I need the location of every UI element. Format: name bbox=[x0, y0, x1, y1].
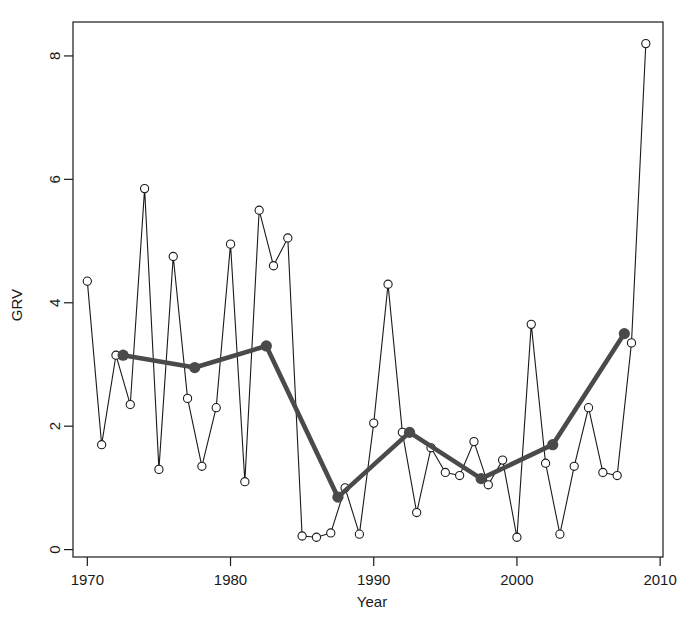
annual-grv-point bbox=[541, 459, 549, 467]
five-year-trend-point bbox=[189, 362, 200, 373]
five-year-trend-point bbox=[404, 427, 415, 438]
annual-grv-point bbox=[198, 462, 206, 470]
x-axis-tick-label: 1990 bbox=[357, 571, 390, 588]
y-axis-title: GRV bbox=[8, 289, 25, 321]
x-axis-tick-label: 1970 bbox=[71, 571, 104, 588]
annual-grv-point bbox=[241, 478, 249, 486]
five-year-trend-point bbox=[261, 340, 272, 351]
annual-grv-point bbox=[584, 404, 592, 412]
annual-grv-point bbox=[370, 419, 378, 427]
y-axis-tick-label: 2 bbox=[47, 422, 64, 430]
annual-grv-point bbox=[456, 471, 464, 479]
annual-grv-point bbox=[441, 468, 449, 476]
chart-container: 02468 19701980199020002010 GRV Year bbox=[0, 0, 687, 629]
annual-grv-point bbox=[269, 262, 277, 270]
y-axis-tick-label: 4 bbox=[47, 299, 64, 307]
five-year-trend-point bbox=[332, 492, 343, 503]
annual-grv-point bbox=[384, 280, 392, 288]
annual-grv-point bbox=[98, 441, 106, 449]
y-axis-tick-label: 6 bbox=[47, 175, 64, 183]
x-axis-tick-label: 1980 bbox=[214, 571, 247, 588]
five-year-trend-point bbox=[476, 473, 487, 484]
annual-grv-point bbox=[642, 39, 650, 47]
annual-grv-point bbox=[613, 471, 621, 479]
annual-grv-point bbox=[556, 530, 564, 538]
chart-background bbox=[0, 0, 687, 629]
annual-grv-point bbox=[169, 252, 177, 260]
annual-grv-point bbox=[126, 400, 134, 408]
y-axis-tick-label: 8 bbox=[47, 52, 64, 60]
annual-grv-point bbox=[527, 320, 535, 328]
annual-grv-point bbox=[355, 530, 363, 538]
y-axis-tick-label: 0 bbox=[47, 545, 64, 553]
x-axis-title: Year bbox=[357, 593, 387, 610]
grv-vs-year-line-chart: 02468 19701980199020002010 GRV Year bbox=[0, 0, 687, 629]
x-axis-tick-label: 2000 bbox=[500, 571, 533, 588]
annual-grv-point bbox=[599, 468, 607, 476]
annual-grv-point bbox=[513, 533, 521, 541]
annual-grv-point bbox=[327, 529, 335, 537]
five-year-trend-point bbox=[118, 350, 129, 361]
annual-grv-point bbox=[83, 277, 91, 285]
annual-grv-point bbox=[312, 533, 320, 541]
annual-grv-point bbox=[212, 404, 220, 412]
annual-grv-point bbox=[226, 240, 234, 248]
annual-grv-point bbox=[255, 206, 263, 214]
five-year-trend-point bbox=[547, 439, 558, 450]
annual-grv-point bbox=[470, 438, 478, 446]
annual-grv-point bbox=[155, 465, 163, 473]
annual-grv-point bbox=[413, 508, 421, 516]
annual-grv-point bbox=[284, 234, 292, 242]
annual-grv-point bbox=[141, 185, 149, 193]
annual-grv-point bbox=[499, 456, 507, 464]
x-axis-tick-label: 2010 bbox=[643, 571, 676, 588]
annual-grv-point bbox=[570, 462, 578, 470]
annual-grv-point bbox=[183, 394, 191, 402]
annual-grv-point bbox=[298, 532, 306, 540]
five-year-trend-point bbox=[619, 328, 630, 339]
annual-grv-point bbox=[627, 339, 635, 347]
